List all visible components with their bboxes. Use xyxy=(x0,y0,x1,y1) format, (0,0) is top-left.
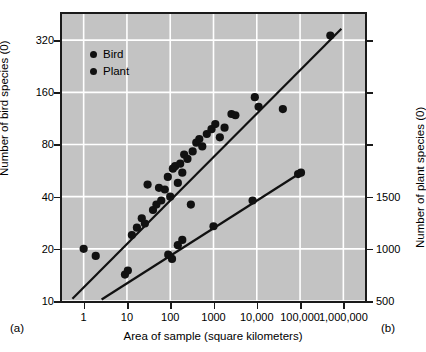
x-tick-label: 100 xyxy=(161,312,179,323)
data-point xyxy=(178,236,186,244)
data-point xyxy=(164,173,172,181)
data-point xyxy=(176,160,184,168)
y-axis-title-right: Number of plant species (0) xyxy=(414,107,426,248)
y-tick-left xyxy=(54,144,60,146)
x-tick-label: 100,000 xyxy=(280,312,320,323)
legend-item-bird: Bird xyxy=(90,47,129,62)
plant-marker-icon xyxy=(90,68,97,75)
x-tick xyxy=(214,303,216,309)
data-point xyxy=(198,142,206,150)
data-point xyxy=(220,124,228,132)
data-point xyxy=(248,196,256,204)
data-point xyxy=(166,193,174,201)
plot-area: Bird Plant xyxy=(60,12,367,303)
y-tick-left xyxy=(54,197,60,199)
y-tick-label-right: 1500 xyxy=(376,191,400,202)
y-tick-label-right: 1000 xyxy=(376,243,400,254)
x-tick xyxy=(257,303,259,309)
data-point xyxy=(254,103,262,111)
panel-letter-b: (b) xyxy=(381,322,395,334)
legend: Bird Plant xyxy=(90,47,129,81)
x-tick xyxy=(300,303,302,309)
y-tick-right xyxy=(367,144,373,146)
panel-letter-a: (a) xyxy=(10,322,24,334)
data-point xyxy=(178,169,186,177)
y-tick-left xyxy=(54,249,60,251)
y-tick-label-left: 40 xyxy=(14,191,54,202)
x-tick-label: 1000 xyxy=(201,312,225,323)
data-point xyxy=(297,169,305,177)
data-point xyxy=(251,93,259,101)
data-point xyxy=(279,105,287,113)
data-point xyxy=(161,185,169,193)
x-tick xyxy=(84,303,86,309)
data-point xyxy=(124,266,132,274)
y-tick-label-right: 500 xyxy=(376,296,394,307)
data-point xyxy=(211,120,219,128)
species-area-figure: Bird Plant 10204080160320150010005001101… xyxy=(0,0,426,352)
x-axis-title: Area of sample (square kilometers) xyxy=(124,330,303,342)
y-tick-left xyxy=(54,301,60,303)
x-tick xyxy=(170,303,172,309)
y-tick-right xyxy=(367,301,373,303)
data-point xyxy=(216,133,224,141)
y-tick-left xyxy=(54,92,60,94)
data-point xyxy=(133,224,141,232)
y-tick-label-left: 320 xyxy=(14,35,54,46)
x-tick xyxy=(127,303,129,309)
y-tick-right xyxy=(367,197,373,199)
legend-item-plant: Plant xyxy=(90,64,129,79)
data-point xyxy=(326,31,334,39)
data-point xyxy=(168,255,176,263)
x-tick xyxy=(343,303,345,309)
x-tick-label: 10 xyxy=(121,312,133,323)
y-tick-left xyxy=(54,40,60,42)
y-tick-right xyxy=(367,249,373,251)
data-point xyxy=(189,147,197,155)
data-point xyxy=(183,155,191,163)
y-tick-right xyxy=(367,40,373,42)
data-point xyxy=(92,252,100,260)
data-point xyxy=(143,180,151,188)
x-tick-label: 1 xyxy=(81,312,87,323)
y-tick-label-left: 80 xyxy=(14,139,54,150)
data-point xyxy=(157,196,165,204)
bird-marker-icon xyxy=(90,51,97,58)
data-point xyxy=(80,245,88,253)
data-point xyxy=(187,200,195,208)
y-axis-title-left: Number of bird species (0) xyxy=(0,41,10,177)
data-point xyxy=(128,231,136,239)
data-point xyxy=(174,179,182,187)
data-point xyxy=(209,222,217,230)
x-tick-label: 1,000,000 xyxy=(319,312,368,323)
x-tick-label: 10,000 xyxy=(240,312,274,323)
y-tick-label-left: 20 xyxy=(14,243,54,254)
legend-label-bird: Bird xyxy=(103,49,123,61)
y-tick-label-left: 160 xyxy=(14,87,54,98)
data-point xyxy=(231,111,239,119)
y-tick-right xyxy=(367,92,373,94)
y-tick-label-left: 10 xyxy=(14,296,54,307)
data-point xyxy=(141,219,149,227)
legend-label-plant: Plant xyxy=(103,66,129,78)
data-point xyxy=(195,135,203,143)
